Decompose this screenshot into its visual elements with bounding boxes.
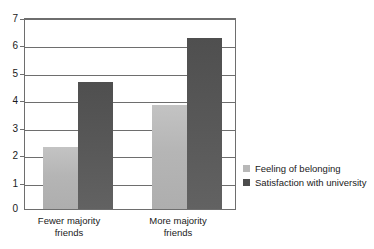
x-category-line-1: More majority	[138, 215, 218, 227]
x-category-line-1: Fewer majority	[29, 215, 109, 227]
legend-swatch-icon-light	[243, 165, 250, 172]
y-tick-label-6: 6	[12, 41, 18, 51]
legend-item-feeling-of-belonging[interactable]: Feeling of belonging	[243, 163, 371, 174]
y-tick-label-5: 5	[12, 69, 18, 79]
bar-belonging-more-majority-friends[interactable]	[152, 105, 187, 209]
legend-swatch-icon-dark	[243, 179, 250, 186]
y-tick-label-7: 7	[12, 14, 18, 24]
bar-belonging-fewer-majority-friends[interactable]	[43, 147, 78, 209]
bar-satisfaction-fewer-majority-friends[interactable]	[78, 82, 113, 210]
x-category-line-2: friends	[29, 227, 109, 239]
legend-label-feeling-of-belonging: Feeling of belonging	[255, 163, 341, 174]
y-tick-label-2: 2	[12, 151, 18, 161]
y-tick-label-3: 3	[12, 124, 18, 134]
plot-area	[24, 18, 236, 210]
x-category-line-2: friends	[138, 227, 218, 239]
y-axis: 7 6 5 4 3 2 1 0	[0, 0, 24, 249]
y-tick-label-1: 1	[12, 179, 18, 189]
bar-chart-figure: 7 6 5 4 3 2 1 0 Fewer majority friends	[0, 0, 374, 249]
legend-label-satisfaction-with-university: Satisfaction with university	[255, 177, 366, 188]
bar-satisfaction-more-majority-friends[interactable]	[187, 38, 222, 209]
chart-legend: Feeling of belonging Satisfaction with u…	[243, 163, 371, 191]
y-tick-label-4: 4	[12, 96, 18, 106]
x-category-label-more-majority-friends: More majority friends	[138, 215, 218, 238]
y-tick-label-0: 0	[12, 204, 18, 214]
legend-item-satisfaction-with-university[interactable]: Satisfaction with university	[243, 177, 371, 188]
x-category-label-fewer-majority-friends: Fewer majority friends	[29, 215, 109, 238]
